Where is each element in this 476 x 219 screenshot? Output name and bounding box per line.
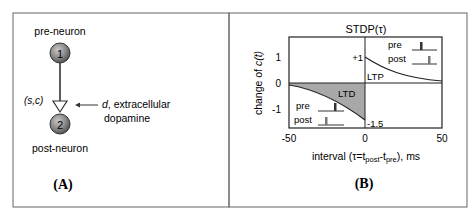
- annot-plus1: +1: [352, 52, 363, 63]
- xtick-neg50: -50: [282, 133, 297, 144]
- ltp-label: LTP: [367, 71, 384, 82]
- inset-post-label: post: [388, 53, 406, 64]
- annot-minus15: -1.5: [367, 118, 383, 129]
- ltp-spike-inset: pre post: [388, 39, 437, 64]
- ltd-label: LTD: [338, 88, 355, 99]
- synapse-triangle-icon: [53, 101, 67, 112]
- arrow-left-icon: [75, 103, 80, 108]
- dopamine-label: d, extracellular: [102, 98, 171, 110]
- xtick-0: 0: [362, 133, 368, 144]
- ytick-1: 1: [275, 52, 281, 63]
- ytick-neg1: -1: [272, 104, 281, 115]
- inset-pre-label: pre: [388, 39, 402, 50]
- ltd-spike-inset: pre post: [294, 100, 344, 125]
- inset-post-label-2: post: [294, 114, 312, 125]
- ytick-0: 0: [275, 78, 281, 89]
- inset-pre-label-2: pre: [296, 100, 310, 111]
- pre-spike-icon: [420, 42, 423, 50]
- pre-spike-icon-2: [334, 103, 337, 111]
- panel-a-label: (A): [53, 177, 73, 193]
- chart-title: STDP(τ): [345, 23, 386, 35]
- xtick-50: 50: [436, 133, 448, 144]
- x-axis-label: interval (τ=tpost-tpre), ms: [312, 150, 420, 164]
- post-neuron-label: post-neuron: [32, 142, 88, 154]
- post-spike-icon: [428, 56, 431, 64]
- post-spike-icon-2: [325, 117, 328, 125]
- dopamine-label-line2: dopamine: [104, 112, 150, 124]
- panel-b: STDP(τ) 1 0 -1 -50 0 50 change of c(t) i…: [252, 23, 448, 192]
- synapse-label: (s,c): [24, 95, 43, 106]
- panel-b-label: (B): [355, 176, 374, 192]
- panel-b-frame: [229, 13, 467, 207]
- panel-a-frame: [13, 13, 229, 207]
- y-axis-label: change of c(t): [252, 51, 264, 115]
- figure: pre-neuron 1 (s,c) d, extracellular dopa…: [0, 0, 476, 219]
- post-neuron-number: 2: [57, 119, 63, 131]
- pre-neuron-label: pre-neuron: [34, 25, 86, 37]
- pre-neuron-number: 1: [57, 48, 63, 60]
- panel-a: pre-neuron 1 (s,c) d, extracellular dopa…: [24, 25, 171, 193]
